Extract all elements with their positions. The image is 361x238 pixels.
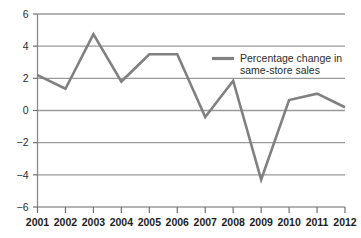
- y-tick-label: −6: [17, 201, 29, 213]
- x-tick-label: 2009: [249, 216, 273, 228]
- x-tick-label: 2006: [166, 216, 190, 228]
- x-axis-tick-labels-group: 2001200220032004200520062007200820092010…: [26, 216, 357, 228]
- line-chart-figure: 6420−2−4−6 20012002200320042005200620072…: [0, 0, 361, 238]
- y-tick-label: 0: [23, 104, 29, 116]
- x-tick-label: 2011: [306, 216, 329, 228]
- x-tick-label: 2004: [110, 216, 134, 228]
- x-tick-label: 2001: [26, 216, 50, 228]
- x-tick-label: 2002: [54, 216, 78, 228]
- y-axis-tick-labels-group: 6420−2−4−6: [17, 8, 29, 213]
- gridlines-group: [38, 14, 346, 207]
- chart-plot-area: 6420−2−4−6 20012002200320042005200620072…: [0, 0, 361, 238]
- x-tick-label: 2003: [82, 216, 106, 228]
- x-tick-label: 2005: [138, 216, 162, 228]
- x-tick-label: 2007: [194, 216, 218, 228]
- x-tick-label: 2012: [333, 216, 357, 228]
- x-tick-label: 2010: [277, 216, 301, 228]
- y-tick-label: −4: [17, 169, 29, 181]
- legend-label-line-1: Percentage change in: [240, 52, 342, 64]
- y-tick-label: 4: [23, 40, 29, 52]
- y-tick-label: 6: [23, 8, 29, 20]
- y-tick-label: −2: [17, 136, 29, 148]
- legend-label-line-2: same-store sales: [240, 64, 320, 76]
- y-tick-marks-group: [33, 14, 38, 207]
- chart-legend: Percentage change in same-store sales: [212, 52, 342, 76]
- x-tick-marks-group: [38, 207, 346, 213]
- x-tick-label: 2008: [222, 216, 246, 228]
- y-tick-label: 2: [23, 72, 29, 84]
